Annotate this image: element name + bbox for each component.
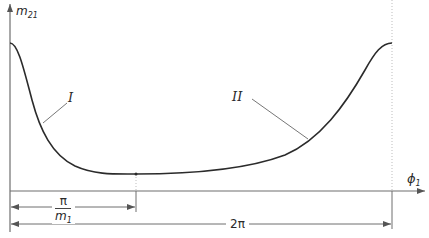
- denominator-sub: 1: [67, 216, 72, 225]
- y-axis-label-base: m: [16, 4, 28, 18]
- y-axis-label: m21: [16, 5, 38, 17]
- x-axis-label-sub: 1: [416, 179, 421, 188]
- minimum-point: [135, 173, 138, 176]
- x-axis-label-base: ϕ: [407, 171, 416, 186]
- denominator-base: m: [55, 209, 67, 223]
- full-period-label: 2π: [226, 218, 249, 230]
- fraction-denominator: m1: [55, 210, 72, 224]
- leader-line-II: [252, 99, 308, 139]
- fraction-numerator: π: [60, 195, 67, 207]
- x-axis-label: ϕ1: [407, 172, 421, 185]
- m21-curve: [10, 43, 392, 174]
- y-axis-label-sub: 21: [28, 11, 38, 20]
- half-period-fraction: π m1: [52, 195, 75, 224]
- curve-label-II: II: [232, 90, 242, 103]
- curve-label-I: I: [68, 91, 73, 104]
- leader-line-I: [43, 103, 67, 123]
